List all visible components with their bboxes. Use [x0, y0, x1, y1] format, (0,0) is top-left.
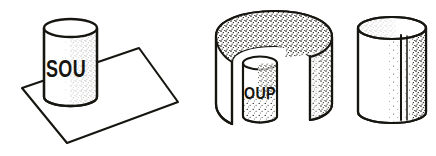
figure-bare-cylinder	[356, 16, 430, 124]
cylinder-stipple-shading	[388, 26, 430, 124]
figure-label-peeled-open: OUP	[210, 8, 336, 126]
illustration-canvas: SOU	[0, 0, 436, 156]
figure-can-on-flat-sheet: SOU	[22, 19, 178, 143]
inner-label-text: OUP	[244, 84, 276, 103]
illustration-root: SOU	[0, 0, 436, 156]
can-label-text: SOU	[46, 55, 86, 82]
